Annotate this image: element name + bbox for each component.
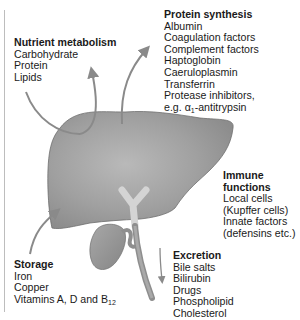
eg-prefix: e.g. xyxy=(164,101,185,113)
immune-functions-block: Immune functions Local cells (Kupffer ce… xyxy=(223,170,295,240)
nutrient-metabolism-block: Nutrient metabolism Carbohydrate Protein… xyxy=(14,37,116,83)
protein-item: Caeruloplasmin xyxy=(164,67,259,79)
immune-item: (defensins etc.) xyxy=(223,228,295,240)
nutrient-item: Lipids xyxy=(14,72,116,84)
protein-item-antitrypsin: e.g. α1-antitrypsin xyxy=(164,102,259,114)
storage-item-vitamins: Vitamins A, D and B12 xyxy=(14,294,116,306)
storage-title: Storage xyxy=(14,259,116,271)
immune-functions-title-1: Immune xyxy=(223,170,295,182)
nutrient-metabolism-title: Nutrient metabolism xyxy=(14,37,116,49)
liver-icon xyxy=(48,111,233,228)
storage-block: Storage Iron Copper Vitamins A, D and B1… xyxy=(14,259,116,305)
excretion-block: Excretion Bile salts Bilirubin Drugs Pho… xyxy=(173,250,234,320)
b12-subscript: 12 xyxy=(108,299,116,306)
protein-synthesis-block: Protein synthesis Albumin Coagulation fa… xyxy=(164,9,259,113)
excretion-title: Excretion xyxy=(173,250,234,262)
vitamins-text: Vitamins A, D and B xyxy=(14,293,108,305)
antitrypsin-suffix: -antitrypsin xyxy=(195,101,247,113)
excretion-item: Cholesterol xyxy=(173,308,234,320)
protein-synthesis-title: Protein synthesis xyxy=(164,9,259,21)
